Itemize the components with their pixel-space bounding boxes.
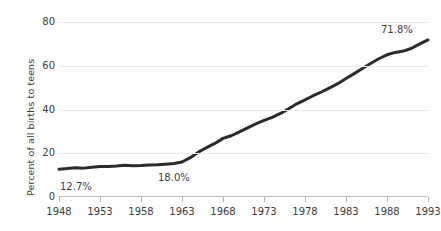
series-polyline (59, 40, 428, 169)
gridline (59, 22, 428, 23)
x-tick (346, 197, 347, 202)
x-tick-label: 1983 (323, 206, 369, 218)
x-tick (59, 197, 60, 202)
y-tick-label: 0 (33, 192, 55, 202)
x-tick (223, 197, 224, 202)
x-tick (141, 197, 142, 202)
x-tick-label: 1973 (241, 206, 287, 218)
gridline (59, 153, 428, 154)
plot-area (59, 22, 428, 197)
y-tick-label: 60 (33, 61, 55, 71)
y-tick-label: 20 (33, 148, 55, 158)
x-tick-label: 1993 (405, 206, 441, 218)
x-tick-label: 1978 (282, 206, 328, 218)
x-tick-label: 1963 (159, 206, 205, 218)
gridline (59, 66, 428, 67)
chart-container: Percent of all births to teens 020406080… (0, 0, 441, 231)
x-tick (182, 197, 183, 202)
x-axis-line (59, 196, 428, 197)
x-tick-label: 1968 (200, 206, 246, 218)
x-tick (305, 197, 306, 202)
annotation-mid-value: 18.0% (158, 172, 190, 183)
x-tick (387, 197, 388, 202)
x-tick (264, 197, 265, 202)
x-tick-label: 1948 (36, 206, 82, 218)
x-tick-label: 1988 (364, 206, 410, 218)
annotation-end-value: 71.8% (381, 24, 413, 35)
y-tick-label: 40 (33, 105, 55, 115)
x-tick-label: 1958 (118, 206, 164, 218)
gridline (59, 110, 428, 111)
y-axis-tick-labels: 020406080 (33, 0, 55, 231)
x-tick (428, 197, 429, 202)
annotation-start-value: 12.7% (60, 181, 92, 192)
y-tick-label: 80 (33, 17, 55, 27)
x-tick-label: 1953 (77, 206, 123, 218)
x-tick (100, 197, 101, 202)
